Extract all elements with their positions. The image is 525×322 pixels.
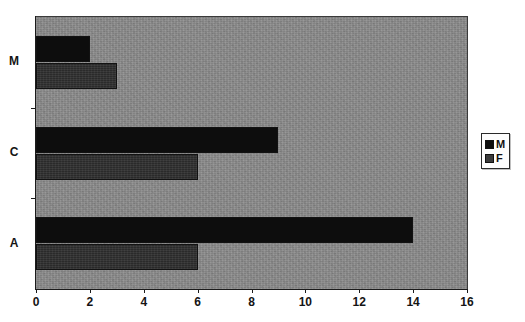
x-tick-0 bbox=[36, 289, 37, 293]
x-tick-10 bbox=[305, 289, 306, 293]
legend-swatch-m-icon bbox=[485, 140, 494, 149]
y-tick-2 bbox=[31, 198, 36, 199]
legend-label-m: M bbox=[496, 139, 505, 150]
y-category-label-m: M bbox=[0, 54, 28, 68]
x-tick-label-4: 4 bbox=[124, 295, 164, 309]
x-tick-label-10: 10 bbox=[285, 295, 325, 309]
x-tick-label-6: 6 bbox=[178, 295, 218, 309]
bar-m-f bbox=[36, 63, 117, 89]
x-tick-12 bbox=[359, 289, 360, 293]
legend-label-f: F bbox=[496, 153, 503, 164]
x-tick-8 bbox=[252, 289, 253, 293]
legend-swatch-f-icon bbox=[485, 154, 494, 163]
x-tick-label-14: 14 bbox=[393, 295, 433, 309]
x-tick-2 bbox=[90, 289, 91, 293]
bar-c-f bbox=[36, 154, 198, 180]
chart-legend: MF bbox=[481, 133, 510, 169]
chart-title bbox=[0, 0, 525, 3]
x-tick-label-0: 0 bbox=[16, 295, 56, 309]
plot-right-border bbox=[467, 16, 468, 290]
x-tick-label-2: 2 bbox=[70, 295, 110, 309]
x-tick-14 bbox=[413, 289, 414, 293]
bar-chart: 0246810121416 MCA MF bbox=[0, 0, 525, 322]
y-tick-1 bbox=[31, 108, 36, 109]
x-tick-label-16: 16 bbox=[447, 295, 487, 309]
y-category-label-c: C bbox=[0, 145, 28, 159]
legend-item-f[interactable]: F bbox=[485, 151, 505, 165]
x-tick-16 bbox=[467, 289, 468, 293]
bar-a-m bbox=[36, 217, 413, 243]
x-tick-6 bbox=[198, 289, 199, 293]
x-tick-label-8: 8 bbox=[232, 295, 272, 309]
x-tick-label-12: 12 bbox=[339, 295, 379, 309]
bar-m-m bbox=[36, 36, 90, 62]
bar-a-f bbox=[36, 244, 198, 270]
y-category-label-a: A bbox=[0, 236, 28, 250]
x-tick-4 bbox=[144, 289, 145, 293]
bar-c-m bbox=[36, 127, 278, 153]
legend-item-m[interactable]: M bbox=[485, 137, 505, 151]
